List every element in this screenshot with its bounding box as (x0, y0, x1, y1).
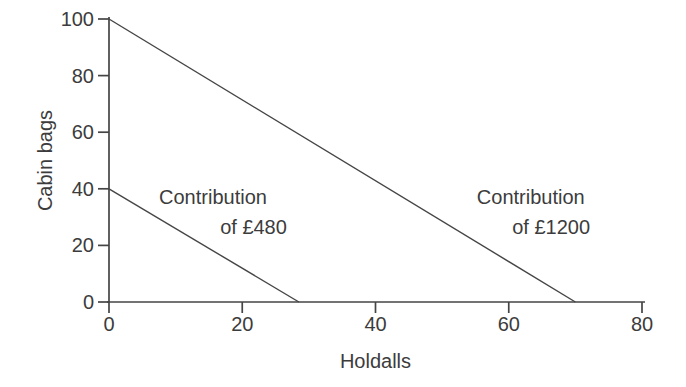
x-tick-label: 20 (231, 313, 253, 335)
y-tick-label: 20 (72, 234, 94, 256)
y-axis-title: Cabin bags (34, 110, 56, 211)
annotation-label: Contribution (477, 186, 585, 208)
x-tick-label: 40 (364, 313, 386, 335)
series-line-contribution-of-1200 (109, 19, 575, 302)
y-tick-label: 40 (72, 178, 94, 200)
chart-canvas: 020406080020406080100HoldallsCabin bagsC… (0, 0, 686, 387)
y-tick-label: 0 (83, 291, 94, 313)
y-tick-label: 80 (72, 65, 94, 87)
annotation-label: of £480 (220, 216, 287, 238)
annotation-label: of £1200 (512, 216, 590, 238)
contribution-line-chart: 020406080020406080100HoldallsCabin bagsC… (0, 0, 686, 387)
x-axis-title: Holdalls (340, 350, 411, 372)
x-tick-label: 60 (498, 313, 520, 335)
annotation-label: Contribution (159, 186, 267, 208)
y-tick-label: 100 (61, 8, 94, 30)
y-tick-label: 60 (72, 121, 94, 143)
x-tick-label: 0 (103, 313, 114, 335)
x-tick-label: 80 (631, 313, 653, 335)
